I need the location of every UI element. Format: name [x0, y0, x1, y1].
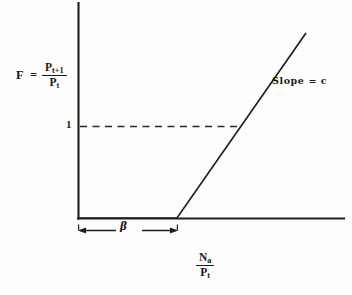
x-axis-numerator-subscript: a	[207, 256, 211, 265]
slope-annotation: Slope = c	[272, 76, 327, 86]
y-axis-tick-label-one: 1	[66, 119, 72, 130]
figure-caption	[26, 289, 336, 295]
x-axis-numerator: Na	[196, 252, 214, 266]
beta-label: β	[120, 221, 127, 232]
figure-container: F = Pt+1 Pt 1 β Slope = c Na Pt	[0, 0, 352, 295]
plot-area	[0, 0, 352, 295]
y-axis-equals: =	[30, 69, 37, 81]
y-axis-numerator: Pt+1	[42, 62, 67, 76]
y-axis-label: F = Pt+1 Pt	[16, 62, 67, 88]
y-axis-denominator: Pt	[46, 76, 62, 89]
y-axis-fraction: Pt+1 Pt	[42, 62, 67, 88]
response-curve	[78, 33, 306, 218]
y-axis-numerator-subscript: t+1	[52, 66, 64, 75]
y-axis-denominator-subscript: t	[56, 81, 59, 90]
beta-measure-arrow	[78, 225, 178, 234]
x-axis-fraction: Na Pt	[196, 252, 214, 278]
x-axis-denominator-subscript: t	[207, 271, 210, 280]
x-axis-label: Na Pt	[196, 252, 214, 278]
y-axis-variable: F	[16, 69, 24, 82]
x-axis-denominator: Pt	[197, 266, 213, 279]
